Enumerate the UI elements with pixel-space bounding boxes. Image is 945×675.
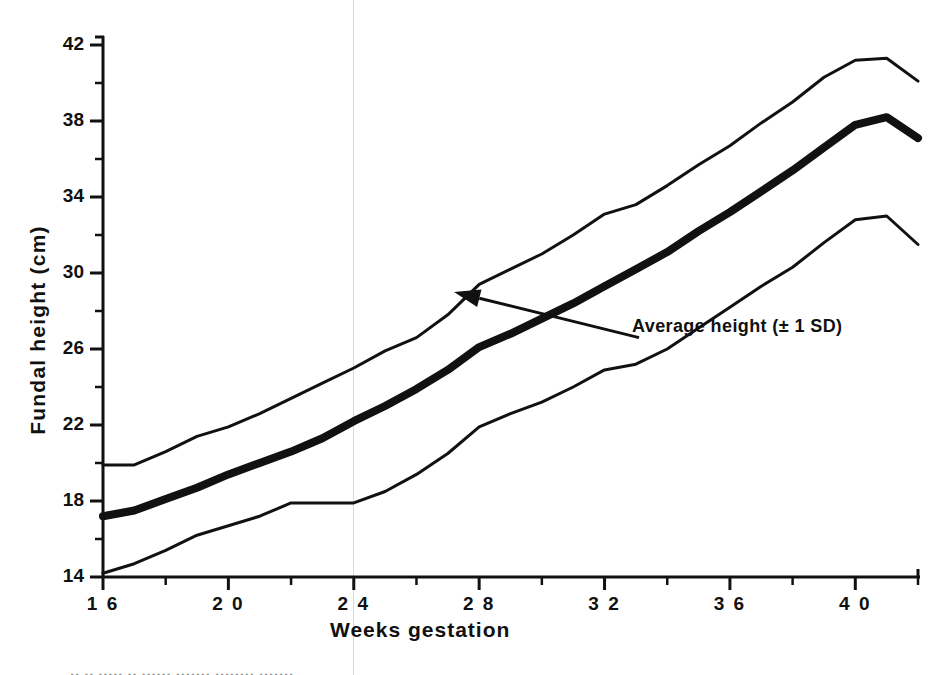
x-tick-label-16: 1 6 xyxy=(75,593,131,615)
x-tick-label-40: 4 0 xyxy=(827,593,883,615)
y-axis-ticks xyxy=(90,45,103,577)
chart-axes xyxy=(95,36,920,578)
annotation-arrow xyxy=(454,289,639,337)
y-tick-label-30: 30 xyxy=(38,261,84,283)
fundal-height-chart xyxy=(0,0,945,675)
x-tick-label-32: 3 2 xyxy=(577,593,633,615)
annotation-arrow-shaft xyxy=(479,298,639,337)
y-tick-label-26: 26 xyxy=(38,337,84,359)
x-tick-label-20: 2 0 xyxy=(200,593,256,615)
y-tick-label-18: 18 xyxy=(38,489,84,511)
series-line--1-sd xyxy=(103,58,918,465)
x-tick-label-28: 2 8 xyxy=(451,593,507,615)
y-tick-label-34: 34 xyxy=(38,185,84,207)
x-axis-title: Weeks gestation xyxy=(330,618,510,642)
y-tick-label-14: 14 xyxy=(38,565,84,587)
x-tick-label-36: 3 6 xyxy=(702,593,758,615)
x-axis-ticks xyxy=(103,577,918,590)
average-height-annotation-label: Average height (± 1 SD) xyxy=(632,316,842,337)
x-tick-label-24: 2 4 xyxy=(326,593,382,615)
figure-caption-clipped: ·· ·· ····· ·· ······ ······· ········ ·… xyxy=(70,666,294,675)
y-tick-label-38: 38 xyxy=(38,109,84,131)
y-tick-label-42: 42 xyxy=(38,33,84,55)
y-tick-label-22: 22 xyxy=(38,413,84,435)
